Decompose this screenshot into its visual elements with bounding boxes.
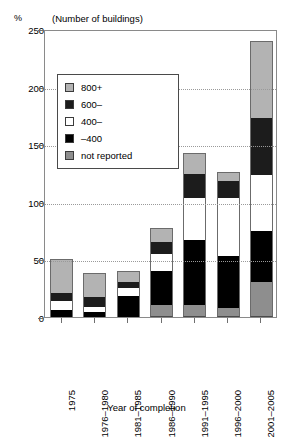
bar-segment xyxy=(83,312,106,317)
x-axis-tick-mark xyxy=(194,318,195,323)
legend-swatch-icon xyxy=(65,134,74,143)
bar-segment xyxy=(217,181,240,198)
legend-label: not reported xyxy=(81,151,132,161)
x-axis-tick-label-wrap: 1996–2000 xyxy=(221,326,233,390)
bar-segment xyxy=(250,231,273,283)
legend-swatch-icon xyxy=(65,83,74,92)
legend-label: 400– xyxy=(81,117,102,127)
legend-label: 600– xyxy=(81,100,102,110)
gridline xyxy=(45,204,276,205)
x-axis-tick-label: 1976–1980 xyxy=(99,390,110,438)
x-axis-tick-mark xyxy=(61,318,62,323)
x-axis-tick-label: 1986–1990 xyxy=(166,390,177,438)
x-axis-tick-mark xyxy=(260,318,261,323)
gridline xyxy=(45,261,276,262)
bar-segment xyxy=(217,308,240,317)
bar-segment xyxy=(183,174,206,198)
stacked-bar[interactable] xyxy=(83,273,106,317)
legend-item-s400[interactable]: 400– xyxy=(65,113,172,130)
x-axis-tick-mark xyxy=(94,318,95,323)
x-axis-tick-label-wrap: 1991–1995 xyxy=(188,326,200,390)
x-axis-tick-label: 1996–2000 xyxy=(232,390,243,438)
legend-swatch-icon xyxy=(65,151,74,160)
bar-segment xyxy=(50,301,73,310)
stacked-bar[interactable] xyxy=(183,153,206,317)
x-axis-tick-label: 1981–1985 xyxy=(132,390,143,438)
x-axis-tick-mark xyxy=(127,318,128,323)
bar-segment xyxy=(217,172,240,181)
stacked-bar[interactable] xyxy=(150,228,173,317)
x-axis-tick-label: 1991–1995 xyxy=(199,390,210,438)
x-axis-tick-label-wrap: 1981–1985 xyxy=(121,326,133,390)
bar-segment xyxy=(217,198,240,256)
x-axis-tick-mark xyxy=(161,318,162,323)
bar-segment xyxy=(50,293,73,301)
bar-segment xyxy=(150,242,173,254)
x-axis-tick-label-wrap: 1976–1980 xyxy=(88,326,100,390)
bar-segment xyxy=(50,310,73,317)
bar-segment xyxy=(150,305,173,317)
bar-segment xyxy=(183,240,206,306)
x-axis-tick-label-wrap: 2001–2005 xyxy=(254,326,266,390)
chart-subtitle: (Number of buildings) xyxy=(52,13,143,24)
x-axis-tick-label: 2001–2005 xyxy=(265,390,276,438)
x-axis-title: Year of completion xyxy=(0,402,293,413)
legend-item-s600[interactable]: 600– xyxy=(65,96,172,113)
legend-item-snr[interactable]: not reported xyxy=(65,147,172,164)
bar-segment xyxy=(83,297,106,306)
bar-segment xyxy=(250,282,273,317)
bar-segment xyxy=(183,153,206,174)
legend: 800+600–400––400not reported xyxy=(57,74,179,169)
bar-segment xyxy=(117,296,140,317)
stacked-bar[interactable] xyxy=(217,172,240,317)
legend-item-sm400[interactable]: –400 xyxy=(65,130,172,147)
bar-segment xyxy=(150,271,173,306)
bar-segment xyxy=(217,256,240,308)
y-axis: 050100150200250 xyxy=(0,0,44,318)
legend-swatch-icon xyxy=(65,117,74,126)
x-axis-tick-label-wrap: 1975 xyxy=(55,326,67,390)
stacked-bar[interactable] xyxy=(50,259,73,317)
stacked-bar[interactable] xyxy=(117,271,140,317)
legend-swatch-icon xyxy=(65,100,74,109)
legend-label: –400 xyxy=(81,134,102,144)
bar-segment xyxy=(250,41,273,118)
x-axis-tick-label: 1975 xyxy=(66,390,77,411)
bar-segment xyxy=(83,273,106,297)
bar-segment xyxy=(183,305,206,317)
y-axis-tick-mark xyxy=(38,318,44,319)
bar-segment xyxy=(150,228,173,242)
bar-segment xyxy=(117,271,140,283)
bar-segment xyxy=(117,288,140,296)
x-axis-tick-mark xyxy=(227,318,228,323)
bar-segment xyxy=(50,259,73,292)
x-axis-tick-label-wrap: 1986–1990 xyxy=(155,326,167,390)
stacked-bar[interactable] xyxy=(250,41,273,317)
legend-item-s800[interactable]: 800+ xyxy=(65,79,172,96)
legend-label: 800+ xyxy=(81,83,102,93)
